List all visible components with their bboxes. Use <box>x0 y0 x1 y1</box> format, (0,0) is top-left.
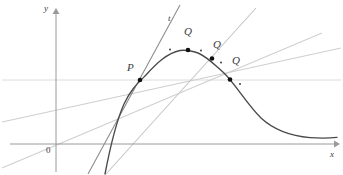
secant-line-3 <box>2 48 341 122</box>
tangent-secant-figure: y x 0 t P Q Q Q <box>0 0 343 175</box>
origin-label: 0 <box>46 146 51 155</box>
point-P-label: P <box>127 62 134 73</box>
secant-line-1 <box>106 8 256 174</box>
point-Q1 <box>186 48 191 53</box>
curve-dot-marker <box>169 49 171 51</box>
x-axis-arrow-icon <box>334 141 340 148</box>
point-Q2 <box>210 56 215 61</box>
point-Q1-label: Q <box>184 26 192 37</box>
point-Q2-label: Q <box>213 39 221 50</box>
point-Q3 <box>228 77 233 82</box>
function-curve <box>105 50 337 174</box>
curve-dot-marker <box>220 62 222 64</box>
curve-dot-marker <box>200 50 202 52</box>
tangent-line <box>88 5 180 174</box>
y-axis-label: y <box>44 4 48 13</box>
x-axis-label: x <box>330 150 334 159</box>
y-axis-arrow-icon <box>53 8 60 14</box>
curve-dot-marker <box>239 83 241 85</box>
point-Q3-label: Q <box>232 55 240 66</box>
tangent-line-label: t <box>168 14 171 23</box>
point-P <box>138 78 143 83</box>
figure-canvas <box>0 0 343 175</box>
